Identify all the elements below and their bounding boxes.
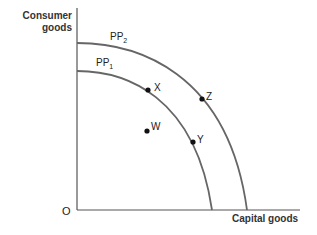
pp2-label: PP2: [110, 31, 127, 44]
point-x: [145, 87, 150, 92]
point-z-label: Z: [206, 91, 212, 102]
origin-label: O: [62, 205, 71, 217]
pp1-label: PP1: [96, 57, 113, 70]
point-y-label: Y: [197, 134, 204, 145]
pp2-label-sub: 2: [123, 37, 127, 44]
point-x-label: X: [154, 82, 161, 93]
y-axis-label-line1: Consumer: [23, 10, 72, 22]
point-w-label: W: [151, 121, 160, 132]
y-axis-label: Consumer goods: [23, 10, 72, 34]
point-y: [190, 139, 195, 144]
pp1-label-sub: 1: [109, 63, 113, 70]
point-z: [199, 96, 204, 101]
x-axis-label: Capital goods: [232, 213, 298, 224]
ppf-chart: [0, 0, 317, 235]
y-axis-label-line2: goods: [23, 22, 72, 34]
pp2-label-base: PP: [110, 31, 123, 42]
pp1-label-base: PP: [96, 57, 109, 68]
point-w: [144, 128, 149, 133]
